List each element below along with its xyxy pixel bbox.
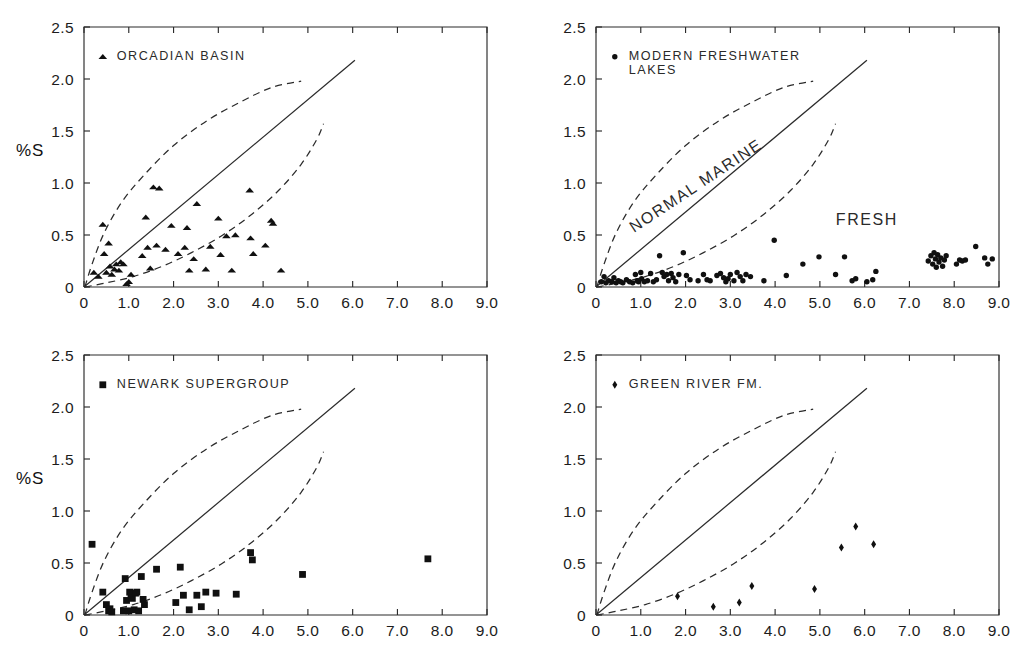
x-tick-label: 5.0 <box>297 294 320 311</box>
data-point-square <box>138 573 145 580</box>
data-point-triangle <box>261 243 270 248</box>
legend-marker-circle <box>612 54 617 59</box>
panel-modern-freshwater-lakes: 01.02.03.04.05.06.07.08.09.000.51.01.52.… <box>512 0 1024 328</box>
x-tick-label: 4.0 <box>252 294 275 311</box>
x-tick-label: 8.0 <box>943 622 966 639</box>
data-point-square <box>247 549 254 556</box>
data-point-circle <box>985 261 990 266</box>
data-point-circle <box>681 250 686 255</box>
data-point-triangle <box>246 235 255 240</box>
data-point-triangle <box>202 267 211 272</box>
data-point-triangle <box>167 223 176 228</box>
legend-label: MODERN FRESHWATER <box>629 49 801 63</box>
data-point-square <box>424 555 431 562</box>
legend-marker-triangle <box>99 54 108 59</box>
y-tick-label: 0 <box>577 279 586 296</box>
x-tick-label: 5.0 <box>809 622 832 639</box>
normal-marine-line <box>596 60 867 287</box>
legend-label-line2: LAKES <box>629 63 677 77</box>
y-tick-label: 1.0 <box>51 503 74 520</box>
y-tick-label: 0.5 <box>51 227 74 244</box>
plot-orcadian-basin: 01.02.03.04.05.06.07.08.09.000.51.01.52.… <box>0 0 512 328</box>
x-tick-label: 7.0 <box>898 622 921 639</box>
data-point-circle <box>982 255 987 260</box>
data-point-square <box>202 589 209 596</box>
data-point-triangle <box>267 218 276 223</box>
data-point-diamond <box>853 523 858 531</box>
data-point-triangle <box>138 253 147 258</box>
data-point-circle <box>664 272 669 277</box>
data-point-circle <box>940 264 945 269</box>
x-tick-label: 9.0 <box>988 622 1011 639</box>
data-point-circle <box>864 279 869 284</box>
y-tick-label: 2.5 <box>563 347 586 364</box>
data-point-triangle <box>100 251 109 256</box>
data-point-circle <box>657 253 662 258</box>
panel-newark-supergroup: 01.02.03.04.05.06.07.08.09.000.51.01.52.… <box>0 328 512 656</box>
x-tick-label: 4.0 <box>252 622 275 639</box>
data-point-diamond <box>675 592 680 600</box>
x-tick-label: 7.0 <box>386 294 409 311</box>
x-tick-label: 1.0 <box>629 294 652 311</box>
legend-label: GREEN RIVER FM. <box>629 377 763 391</box>
legend-newark-supergroup: NEWARK SUPERGROUP <box>99 377 290 391</box>
y-tick-label: 2.5 <box>563 19 586 36</box>
x-tick-label: 1.0 <box>629 622 652 639</box>
data-point-square <box>123 597 130 604</box>
lower-envelope-curve <box>597 124 836 287</box>
data-point-square <box>99 589 106 596</box>
data-point-circle <box>772 238 777 243</box>
normal-marine-line <box>596 388 867 615</box>
data-point-circle <box>666 278 671 283</box>
plot-green-river-fm: 01.02.03.04.05.06.07.08.09.000.51.01.52.… <box>512 328 1024 656</box>
data-point-square <box>299 571 306 578</box>
y-tick-label: 0.5 <box>563 227 586 244</box>
x-tick-label: 6.0 <box>853 622 876 639</box>
fresh-label: FRESH <box>836 211 898 228</box>
x-tick-label: 3.0 <box>719 622 742 639</box>
data-point-triangle <box>161 247 170 252</box>
data-point-square <box>122 575 129 582</box>
x-tick-label: 8.0 <box>431 294 454 311</box>
data-point-triangle <box>149 184 158 189</box>
data-point-square <box>193 592 200 599</box>
x-tick-label: 4.0 <box>764 622 787 639</box>
data-point-triangle <box>185 268 194 273</box>
data-point-circle <box>761 278 766 283</box>
data-point-circle <box>673 279 678 284</box>
y-tick-label: 2.0 <box>563 71 586 88</box>
data-point-triangle <box>231 232 240 237</box>
data-point-circle <box>784 273 789 278</box>
data-point-triangle <box>189 256 198 261</box>
data-point-triangle <box>183 225 192 230</box>
y-tick-label: 0.5 <box>563 555 586 572</box>
normal-marine-line <box>84 60 355 287</box>
x-tick-label: 5.0 <box>297 622 320 639</box>
x-tick-label: 4.0 <box>764 294 787 311</box>
data-point-triangle <box>245 188 254 193</box>
y-tick-label: 0.5 <box>51 555 74 572</box>
data-points-newark-supergroup <box>89 541 432 615</box>
data-point-circle <box>638 270 643 275</box>
data-point-diamond <box>749 582 754 590</box>
x-tick-label: 9.0 <box>476 294 499 311</box>
data-point-circle <box>800 261 805 266</box>
data-point-circle <box>648 271 653 276</box>
data-point-circle <box>833 272 838 277</box>
x-tick-label: 5.0 <box>809 294 832 311</box>
data-point-diamond <box>737 599 742 607</box>
x-tick-label: 6.0 <box>341 622 364 639</box>
data-point-triangle <box>146 266 155 271</box>
data-point-circle <box>943 253 948 258</box>
y-tick-label: 1.5 <box>51 451 74 468</box>
y-tick-label: 2.5 <box>51 19 74 36</box>
data-point-triangle <box>104 241 113 246</box>
data-point-square <box>89 541 96 548</box>
data-point-triangle <box>249 251 258 256</box>
data-point-circle <box>870 277 875 282</box>
x-tick-label: 3.0 <box>719 294 742 311</box>
data-point-circle <box>728 272 733 277</box>
data-point-square <box>198 603 205 610</box>
data-point-square <box>141 601 148 608</box>
data-point-triangle <box>143 245 152 250</box>
